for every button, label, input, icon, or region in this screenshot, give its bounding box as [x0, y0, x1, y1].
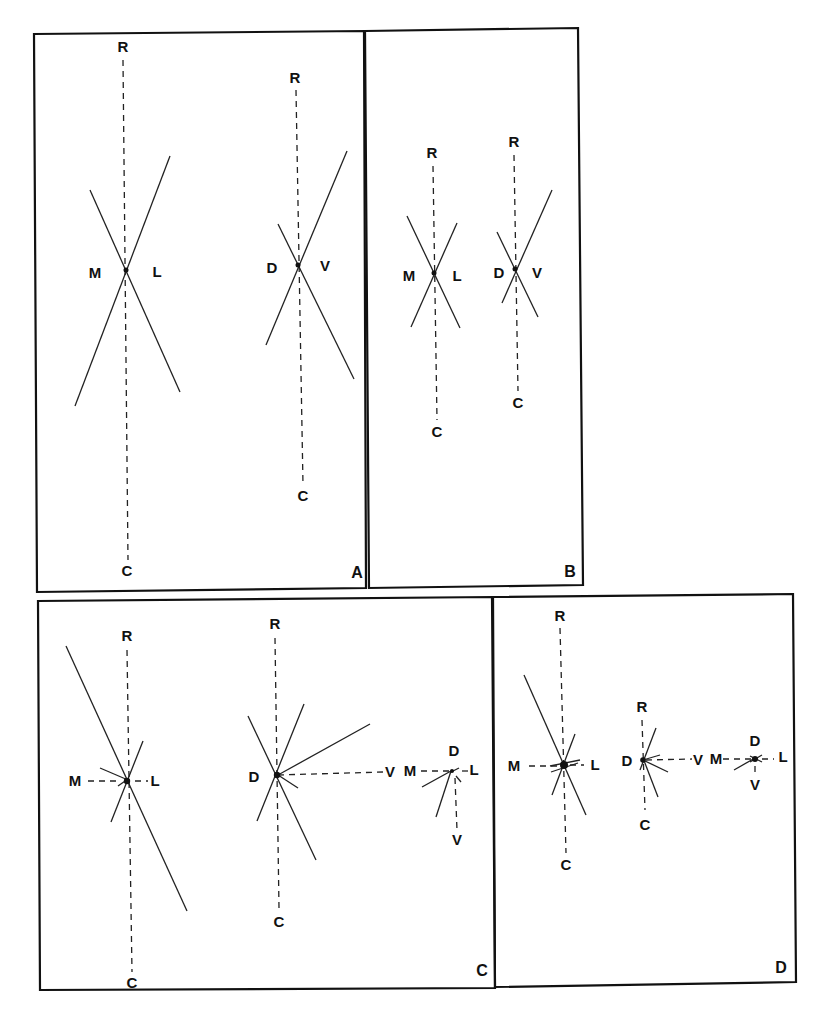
- label-dorsal: D: [494, 264, 505, 281]
- label-caudal: C: [640, 816, 651, 833]
- label-caudal: C: [127, 974, 138, 991]
- label-medial: M: [404, 762, 417, 779]
- label-ventral: V: [320, 257, 330, 274]
- label-rostral: R: [555, 607, 566, 624]
- label-caudal: C: [298, 487, 309, 504]
- label-rostral: R: [270, 615, 281, 632]
- label-dorsal: D: [267, 259, 278, 276]
- panel-c-transverse-projection: D M L V: [404, 742, 479, 848]
- label-medial: M: [710, 750, 723, 767]
- label-ventral: V: [452, 831, 462, 848]
- label-dorsal: D: [449, 742, 460, 759]
- panel-c-sagittal-projection: R C D V: [248, 615, 395, 930]
- panel-a-sagittal-projection: R C D V: [266, 69, 354, 504]
- panel-c-frame: [38, 597, 495, 990]
- label-dorsal: D: [750, 732, 761, 749]
- label-caudal: C: [513, 394, 524, 411]
- panel-b-sagittal-projection: R C D V: [494, 133, 552, 411]
- panel-c-label: C: [476, 962, 488, 979]
- label-ventral: V: [750, 776, 760, 793]
- label-lateral: L: [452, 267, 461, 284]
- label-medial: M: [89, 264, 102, 281]
- label-ventral: V: [385, 763, 395, 780]
- label-rostral: R: [427, 144, 438, 161]
- figure-canvas: A R C M L R C D V B: [0, 0, 824, 1012]
- label-caudal: C: [274, 913, 285, 930]
- label-rostral: R: [122, 627, 133, 644]
- panel-b-frame: [365, 28, 583, 588]
- label-ventral: V: [532, 264, 542, 281]
- label-rostral: R: [637, 698, 648, 715]
- label-lateral: L: [150, 772, 159, 789]
- panel-d-horizontal-projection: R C M L: [508, 607, 600, 873]
- label-rostral: R: [290, 69, 301, 86]
- panel-a-frame: [34, 31, 366, 592]
- label-rostral: R: [118, 38, 129, 55]
- panel-d-transverse-projection: D M L V: [710, 732, 788, 793]
- label-caudal: C: [561, 856, 572, 873]
- panel-a: A R C M L R C D V: [34, 31, 366, 592]
- panel-d: D R C M L R C D V: [493, 594, 796, 987]
- label-dorsal: D: [622, 752, 633, 769]
- panel-c-horizontal-projection: R C M L: [66, 627, 187, 991]
- label-lateral: L: [152, 263, 161, 280]
- label-caudal: C: [122, 562, 133, 579]
- panel-b-label: B: [564, 563, 576, 580]
- panel-c: C R C M L R C D V: [38, 597, 495, 991]
- label-lateral: L: [590, 756, 599, 773]
- label-medial: M: [508, 757, 521, 774]
- panel-b-horizontal-projection: R C M L: [403, 144, 462, 440]
- label-medial: M: [403, 267, 416, 284]
- panel-a-horizontal-projection: R C M L: [75, 38, 180, 579]
- label-ventral: V: [693, 751, 703, 768]
- label-caudal: C: [432, 423, 443, 440]
- label-medial: M: [69, 772, 82, 789]
- label-dorsal: D: [249, 768, 260, 785]
- panel-d-label: D: [775, 959, 787, 976]
- panel-a-label: A: [351, 564, 363, 581]
- label-lateral: L: [778, 748, 787, 765]
- label-lateral: L: [469, 761, 478, 778]
- panel-d-sagittal-projection: R C D V: [622, 698, 703, 833]
- label-rostral: R: [509, 133, 520, 150]
- panel-b: B R C M L R C D V: [365, 28, 583, 588]
